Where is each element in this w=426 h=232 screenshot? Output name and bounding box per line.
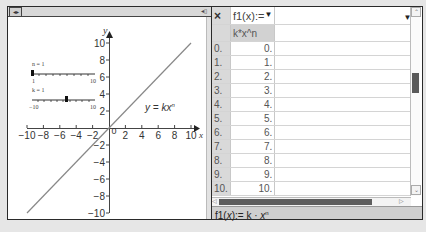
x-axis-label: x: [198, 130, 203, 140]
cell-a[interactable]: 9.: [230, 168, 274, 182]
cell-a[interactable]: 6.: [230, 126, 274, 140]
x-tick-label: 10: [185, 130, 197, 141]
cell-b[interactable]: [275, 84, 414, 98]
column-a-formula-cell[interactable]: k*x^n: [230, 25, 274, 42]
table-row: 1.1.: [212, 56, 413, 70]
table-row: 10.10.: [212, 182, 413, 196]
cell-a[interactable]: 8.: [230, 154, 274, 168]
slider-n-label: n = 1: [32, 61, 44, 67]
pane-tab-icon[interactable]: ◂▸: [9, 7, 22, 17]
cell-b[interactable]: [275, 140, 414, 154]
cell-b[interactable]: [275, 56, 414, 70]
y-tick-label: −4: [94, 157, 106, 168]
row-index: 1.: [212, 56, 230, 70]
pane-resize-icon[interactable]: ◂▯: [199, 7, 209, 15]
origin-label: 0: [111, 126, 116, 136]
close-sheet-button[interactable]: ×: [212, 7, 230, 25]
slider-n-max: 10: [90, 78, 96, 84]
table-row: 0.0.: [212, 42, 413, 56]
x-tick-label: 8: [172, 130, 178, 141]
lists-spreadsheet-pane[interactable]: × f1(x):=▼ ▼ k*x^n 0.0. 1.1. 2.2. 3.3. 4…: [212, 7, 422, 219]
spreadsheet-table: × f1(x):=▼ ▼ k*x^n 0.0. 1.1. 2.2. 3.3. 4…: [212, 7, 413, 196]
x-tick-label: 4: [139, 130, 145, 141]
row-index: 2.: [212, 70, 230, 84]
column-name-row: × f1(x):=▼ ▼: [212, 7, 413, 25]
y-axis-label: y: [102, 25, 108, 36]
x-tick-label: −4: [70, 130, 82, 141]
vertical-scrollbar[interactable]: ⌃ ⌄: [410, 7, 420, 196]
table-row: 6.6.: [212, 126, 413, 140]
cell-b[interactable]: [275, 154, 414, 168]
y-tick-label: −6: [94, 174, 106, 185]
graph-pane-topbar: ◂▸ ◂▯: [8, 7, 211, 17]
graph-pane[interactable]: ◂▸ ◂▯: [8, 7, 212, 219]
slider-n[interactable]: n = 1 1 10: [31, 61, 96, 84]
scroll-up-icon[interactable]: ⌃: [411, 7, 421, 17]
cell-a[interactable]: 7.: [230, 140, 274, 154]
graph-pane-edge: [206, 17, 211, 219]
cell-b[interactable]: [275, 70, 414, 84]
formula-bar[interactable]: f1(x):= k · xn: [212, 206, 422, 219]
app-frame: ◂▸ ◂▯: [7, 6, 423, 220]
column-a-menu-icon[interactable]: ▼: [264, 10, 272, 19]
equation-label[interactable]: y = kxn: [144, 102, 175, 113]
cell-a[interactable]: 3.: [230, 84, 274, 98]
formula-row-index: [212, 25, 230, 42]
table-row: 3.3.: [212, 84, 413, 98]
close-icon[interactable]: ×: [214, 9, 221, 23]
cell-a[interactable]: 5.: [230, 112, 274, 126]
cell-b[interactable]: [275, 182, 414, 196]
y-tick-label: 6: [99, 72, 105, 83]
slider-k-label: k = 1: [32, 87, 44, 93]
row-index: 3.: [212, 84, 230, 98]
slider-k-max: 10: [90, 104, 96, 110]
y-tick-label: 10: [94, 38, 106, 49]
horizontal-scrollbar[interactable]: ◁ ▷: [212, 197, 411, 206]
column-b-header[interactable]: ▼: [275, 7, 414, 25]
cell-a[interactable]: 1.: [230, 56, 274, 70]
graph-canvas[interactable]: −10 −8 −6 −4 −2 0 2 4 6 8 10 10 8 6 4 2 …: [8, 17, 207, 219]
column-b-formula-cell[interactable]: [275, 25, 414, 42]
x-tick-label: −8: [38, 130, 50, 141]
table-row: 8.8.: [212, 154, 413, 168]
y-tick-label: −10: [88, 208, 105, 219]
slider-n-handle[interactable]: [31, 70, 34, 76]
row-index: 7.: [212, 140, 230, 154]
horizontal-scroll-thumb[interactable]: [219, 199, 372, 205]
cell-a[interactable]: 0.: [230, 42, 274, 56]
cell-b[interactable]: [275, 42, 414, 56]
y-tick-label: −8: [94, 191, 106, 202]
vertical-scroll-thumb[interactable]: [412, 73, 419, 93]
slider-n-min: 1: [32, 78, 35, 84]
cell-b[interactable]: [275, 98, 414, 112]
column-a-header[interactable]: f1(x):=▼: [230, 7, 274, 25]
column-formula-row: k*x^n: [212, 25, 413, 42]
scroll-down-icon[interactable]: ⌄: [411, 185, 421, 195]
cell-b[interactable]: [275, 126, 414, 140]
row-index: 9.: [212, 168, 230, 182]
cell-a[interactable]: 2.: [230, 70, 274, 84]
scroll-left-icon[interactable]: ◁: [212, 198, 218, 205]
row-index: 5.: [212, 112, 230, 126]
y-tick-label: 2: [99, 106, 105, 117]
cell-b[interactable]: [275, 112, 414, 126]
table-row: 4.4.: [212, 98, 413, 112]
slider-k[interactable]: k = 1 −10 10: [29, 87, 96, 110]
cell-b[interactable]: [275, 168, 414, 182]
slider-k-handle[interactable]: [65, 96, 68, 102]
row-index: 4.: [212, 98, 230, 112]
x-tick-label: 6: [155, 130, 161, 141]
row-index: 0.: [212, 42, 230, 56]
x-tick-label: 2: [123, 130, 129, 141]
row-index: 6.: [212, 126, 230, 140]
table-row: 5.5.: [212, 112, 413, 126]
table-row: 2.2.: [212, 70, 413, 84]
slider-k-min: −10: [29, 104, 38, 110]
x-tick-label: −10: [19, 130, 36, 141]
table-row: 9.9.: [212, 168, 413, 182]
y-tick-label: 4: [99, 89, 105, 100]
cell-a[interactable]: 4.: [230, 98, 274, 112]
scroll-right-icon[interactable]: ▷: [399, 198, 407, 205]
cell-a[interactable]: 10.: [230, 182, 274, 196]
table-row: 7.7.: [212, 140, 413, 154]
